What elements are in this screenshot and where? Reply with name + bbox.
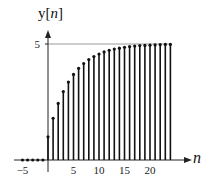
x-tick-label: −5 (17, 164, 29, 176)
stem-marker (21, 158, 24, 161)
y-axis-label: y[n] (38, 5, 63, 22)
stem-marker (97, 52, 100, 55)
stem-plot: 5−55101520 (0, 0, 210, 182)
stem-marker (62, 90, 65, 93)
stem-marker (77, 67, 80, 70)
stem-marker (67, 80, 70, 83)
x-tick-label: 15 (119, 164, 131, 176)
stem-marker (113, 48, 116, 51)
stem-marker (72, 73, 75, 76)
x-axis-arrow-icon (184, 157, 192, 163)
stem-marker (41, 158, 44, 161)
stem-marker (26, 158, 29, 161)
stem-marker (57, 102, 60, 105)
stem-marker (103, 50, 106, 53)
stem-marker (52, 117, 55, 120)
stem-marker (154, 43, 157, 46)
stem-marker (159, 43, 162, 46)
stem-marker (36, 158, 39, 161)
stem-marker (82, 62, 85, 65)
stem-marker (164, 43, 167, 46)
y-axis-label-main: y[ (38, 5, 51, 21)
x-tick-label: 10 (94, 164, 106, 176)
stem-marker (46, 135, 49, 138)
x-tick-label: 5 (71, 164, 77, 176)
stem-marker (138, 44, 141, 47)
stem-marker (128, 45, 131, 48)
y-axis-label-var: n (51, 5, 59, 21)
stem-marker (148, 44, 151, 47)
stem-marker (169, 43, 172, 46)
x-axis-label: n (193, 149, 201, 167)
stem-marker (31, 158, 34, 161)
y-tick-label: 5 (35, 38, 41, 50)
y-axis-label-close: ] (58, 5, 63, 21)
stem-marker (87, 58, 90, 61)
x-tick-label: 20 (145, 164, 157, 176)
stem-marker (92, 55, 95, 58)
stem-marker (123, 46, 126, 49)
stem-marker (108, 49, 111, 52)
y-axis-arrow-icon (45, 30, 51, 38)
stem-marker (118, 47, 121, 50)
stem-marker (143, 44, 146, 47)
stem-marker (133, 44, 136, 47)
